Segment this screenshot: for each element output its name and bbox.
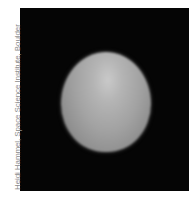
image-credit: Heidi Hammel, Space Science Institute, B… <box>13 45 22 190</box>
planet-disk <box>61 52 151 152</box>
astronomy-image-frame <box>20 8 189 191</box>
